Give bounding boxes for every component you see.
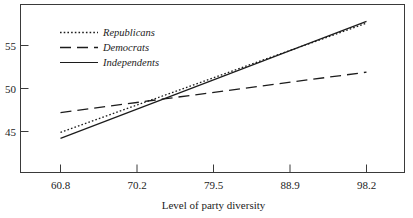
x-axis-title: Level of party diversity [162, 199, 266, 211]
x-tick-label-70-2: 70.2 [127, 179, 146, 191]
y-tick-label-55: 55 [5, 40, 17, 52]
x-tick-label-88-9: 88.9 [280, 179, 300, 191]
y-tick-label-50: 50 [5, 83, 17, 95]
legend-label-republicans: Republicans [102, 27, 155, 38]
x-tick-label-98-2: 98.2 [357, 179, 376, 191]
line-chart-canvas: 55 50 45 60.8 70.2 79.5 88.9 98.2 Level … [0, 0, 413, 218]
y-tick-label-45: 45 [5, 126, 17, 138]
chart-figure: 55 50 45 60.8 70.2 79.5 88.9 98.2 Level … [0, 0, 413, 218]
legend-label-democrats: Democrats [102, 42, 149, 53]
legend-label-independents: Independents [102, 57, 159, 68]
x-tick-label-60-8: 60.8 [51, 179, 71, 191]
x-tick-label-79-5: 79.5 [204, 179, 224, 191]
